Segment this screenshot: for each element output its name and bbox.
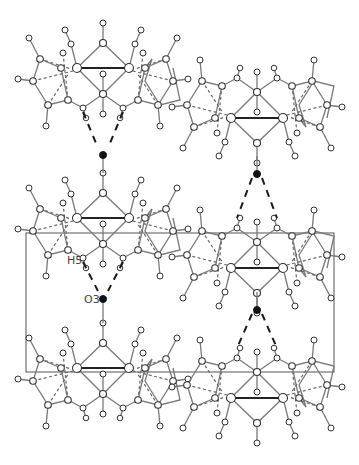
water-left-1 bbox=[83, 112, 123, 173]
molecule-right-top bbox=[169, 57, 345, 166]
molecule-left-bottom bbox=[15, 320, 191, 429]
water-right-2 bbox=[237, 292, 277, 348]
oxygen-atom bbox=[100, 296, 107, 303]
molecule-left-top bbox=[15, 20, 191, 129]
oxygen-atom bbox=[254, 307, 261, 314]
molecule-right-bottom bbox=[169, 337, 345, 446]
label-h5: H5 bbox=[67, 254, 82, 267]
oxygen-atom bbox=[254, 171, 261, 178]
oxygen-atom bbox=[100, 152, 107, 159]
label-o3: O3 bbox=[84, 293, 100, 306]
molecule-left-middle bbox=[15, 170, 191, 279]
water-right-1 bbox=[237, 156, 277, 218]
crystal-packing-diagram: H5 O3 bbox=[0, 0, 359, 465]
